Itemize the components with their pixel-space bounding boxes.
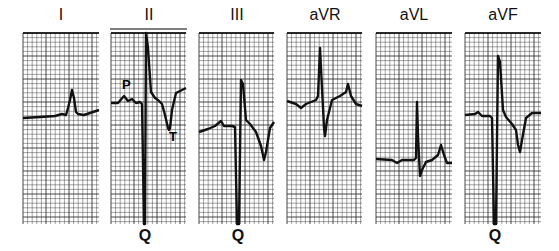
lead-label-aVR: aVR	[305, 6, 345, 24]
ecg-panel-I	[23, 33, 99, 224]
wave-annotation-T: T	[169, 129, 177, 144]
q-wave-label-aVF: Q	[485, 227, 505, 245]
ecg-panel-II: PT	[110, 29, 187, 224]
ecg-panel-aVF	[465, 33, 541, 224]
q-wave-label-II: Q	[135, 227, 155, 245]
ecg-trace-aVR	[287, 48, 362, 136]
lead-label-aVL: aVL	[394, 6, 434, 24]
ecg-panel-aVR	[287, 33, 362, 224]
lead-label-aVF: aVF	[483, 6, 523, 24]
lead-label-I: I	[51, 6, 71, 24]
lead-label-II: II	[139, 6, 159, 24]
wave-annotation-P: P	[122, 77, 131, 92]
ecg-panel-aVL	[376, 33, 452, 224]
ecg-strips: PT	[0, 0, 559, 251]
ecg-panel-III	[199, 33, 274, 224]
q-wave-label-III: Q	[228, 227, 248, 245]
lead-label-III: III	[224, 6, 250, 24]
